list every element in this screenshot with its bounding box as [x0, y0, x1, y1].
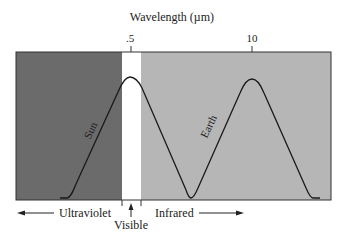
visible-region [122, 52, 141, 200]
tick-label-0-5: .5 [126, 32, 135, 44]
visible-label: Visible [114, 218, 148, 232]
axis-title: Wavelength (µm) [130, 10, 214, 24]
infrared-label: Infrared [155, 206, 194, 220]
radiation-spectrum-diagram: Wavelength (µm) .5 10 Sun Earth Ultravio… [0, 0, 343, 238]
infrared-region [141, 52, 331, 200]
visible-arrow-icon [129, 203, 134, 210]
tick-label-10: 10 [247, 32, 259, 44]
infrared-arrow-icon [236, 211, 244, 216]
ultraviolet-arrow-icon [17, 211, 25, 216]
ultraviolet-region [16, 52, 122, 200]
ultraviolet-label: Ultraviolet [59, 206, 112, 220]
